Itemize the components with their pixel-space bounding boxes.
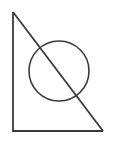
- geometric-figure: [0, 0, 115, 142]
